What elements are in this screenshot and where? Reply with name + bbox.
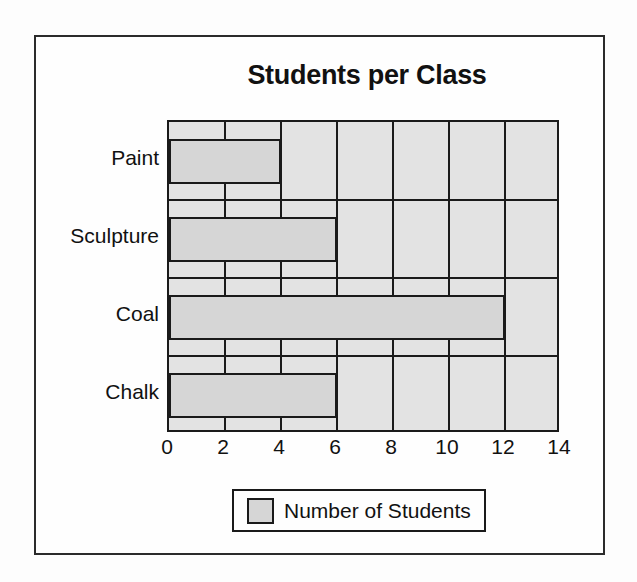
bar-coal[interactable] (169, 295, 505, 340)
y-label-chalk: Chalk (39, 380, 159, 404)
bar-chalk[interactable] (169, 373, 337, 418)
bar-band-chalk (169, 356, 557, 434)
figure-frame: Students per Class PaintSculptureCoalCha… (34, 35, 605, 555)
x-tick-0: 0 (147, 435, 187, 459)
bar-band-sculpture (169, 200, 557, 278)
chart-title: Students per Class (167, 60, 567, 91)
plot-area (167, 120, 559, 432)
y-label-coal: Coal (39, 302, 159, 326)
band-separator-1 (169, 199, 557, 201)
bar-band-coal (169, 278, 557, 356)
x-tick-10: 10 (427, 435, 467, 459)
y-label-sculpture: Sculpture (39, 224, 159, 248)
band-separator-2 (169, 277, 557, 279)
bar-band-paint (169, 122, 557, 200)
x-tick-2: 2 (203, 435, 243, 459)
x-tick-12: 12 (483, 435, 523, 459)
x-tick-8: 8 (371, 435, 411, 459)
bar-sculpture[interactable] (169, 217, 337, 262)
band-separator-3 (169, 355, 557, 357)
legend-label-number-of-students: Number of Students (284, 498, 471, 524)
chart-legend: Number of Students (232, 489, 486, 532)
x-axis-tick-labels: 02468101214 (167, 435, 559, 465)
bar-paint[interactable] (169, 139, 281, 184)
x-tick-14: 14 (539, 435, 579, 459)
y-axis-category-labels: PaintSculptureCoalChalk (36, 120, 159, 432)
y-label-paint: Paint (39, 146, 159, 170)
x-tick-4: 4 (259, 435, 299, 459)
x-tick-6: 6 (315, 435, 355, 459)
legend-swatch-number-of-students (247, 498, 274, 524)
